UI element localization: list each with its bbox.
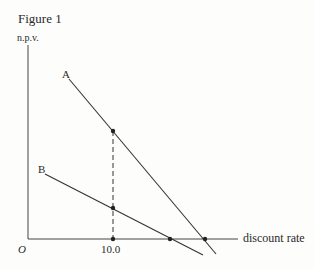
chart-plot bbox=[0, 0, 314, 269]
line-a bbox=[69, 79, 216, 254]
point-b-irr bbox=[168, 237, 172, 241]
point-axis-10 bbox=[111, 237, 115, 241]
line-b bbox=[45, 174, 203, 255]
point-a-10 bbox=[111, 129, 115, 133]
point-a-irr bbox=[203, 237, 207, 241]
point-b-10 bbox=[111, 206, 115, 210]
